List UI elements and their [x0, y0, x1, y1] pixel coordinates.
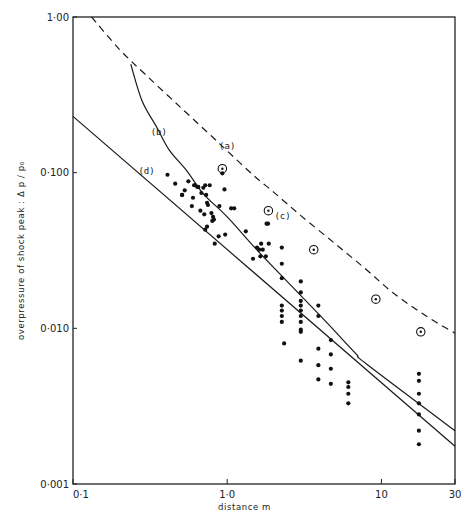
plot-area: 0·11·01030 1·000·1000·0100·001 (a)(b)(d)…	[40, 12, 461, 501]
data-point	[280, 276, 284, 280]
data-point	[329, 338, 333, 342]
data-point	[173, 182, 177, 186]
circled-points	[218, 165, 425, 336]
data-point	[213, 242, 217, 246]
data-point	[217, 204, 221, 208]
data-point	[206, 203, 210, 207]
data-point	[316, 303, 320, 307]
circled-point-center	[420, 331, 422, 333]
data-point	[204, 193, 208, 197]
data-point	[417, 392, 421, 396]
data-points	[165, 171, 421, 446]
circled-point-center	[221, 168, 223, 170]
circled-point-center	[375, 298, 377, 300]
data-point	[299, 279, 303, 283]
data-point	[329, 382, 333, 386]
y-tick-label: 1·00	[47, 12, 69, 23]
x-tick-label: 30	[449, 489, 462, 500]
curve-label-c: (c)	[274, 211, 290, 221]
data-point	[299, 320, 303, 324]
data-point	[198, 209, 202, 213]
data-point	[205, 225, 209, 229]
y-tick-label: 0·100	[40, 167, 69, 178]
data-point	[316, 377, 320, 381]
data-point	[280, 320, 284, 324]
data-point	[191, 196, 195, 200]
data-point	[183, 188, 187, 192]
y-axis-ticks: 1·000·1000·0100·001	[40, 12, 77, 490]
data-point	[261, 248, 265, 252]
data-point	[244, 229, 248, 233]
data-point	[299, 308, 303, 312]
data-point	[417, 429, 421, 433]
data-point	[299, 299, 303, 303]
data-point	[282, 341, 286, 345]
y-tick-label: 0·001	[40, 479, 69, 490]
circled-point-center	[267, 209, 269, 211]
data-point	[202, 212, 206, 216]
data-point	[232, 206, 236, 210]
data-point	[280, 308, 284, 312]
data-point	[299, 290, 303, 294]
data-point	[280, 262, 284, 266]
data-point	[223, 233, 227, 237]
curve-label: (d)	[138, 166, 154, 176]
data-point	[280, 303, 284, 307]
data-point	[203, 183, 207, 187]
data-point	[264, 254, 268, 258]
y-tick-label: 0·010	[40, 323, 69, 334]
data-point	[417, 379, 421, 383]
data-point	[346, 385, 350, 389]
data-point	[209, 211, 213, 215]
data-point	[180, 193, 184, 197]
data-point	[299, 303, 303, 307]
data-point	[329, 367, 333, 371]
x-tick-label: 0·1	[73, 489, 89, 500]
data-point	[190, 204, 194, 208]
curve-b	[131, 64, 455, 430]
data-point	[196, 185, 200, 189]
data-point	[165, 173, 169, 177]
data-point	[316, 347, 320, 351]
data-point	[299, 359, 303, 363]
curve-label: (a)	[219, 141, 235, 151]
data-point	[280, 314, 284, 318]
data-point	[417, 401, 421, 405]
x-axis-ticks: 0·11·01030	[73, 479, 461, 500]
data-point	[266, 222, 270, 226]
data-point	[280, 246, 284, 250]
x-tick-label: 1·0	[219, 489, 235, 500]
x-axis-title: distance m	[218, 502, 271, 512]
data-point	[259, 242, 263, 246]
data-point	[417, 372, 421, 376]
data-point	[299, 330, 303, 334]
data-point	[299, 314, 303, 318]
data-point	[258, 254, 262, 258]
data-point	[251, 257, 255, 261]
curves	[73, 17, 455, 446]
data-point	[186, 179, 190, 183]
data-point	[217, 234, 221, 238]
data-point	[257, 248, 261, 252]
data-point	[222, 187, 226, 191]
data-point	[267, 242, 271, 246]
data-point	[329, 352, 333, 356]
data-point	[316, 363, 320, 367]
data-point	[208, 183, 212, 187]
data-point	[199, 191, 203, 195]
data-point	[417, 442, 421, 446]
data-point	[212, 217, 216, 221]
data-point	[346, 380, 350, 384]
chart: 0·11·01030 1·000·1000·0100·001 (a)(b)(d)…	[0, 0, 470, 525]
data-point	[316, 314, 320, 318]
data-point	[417, 412, 421, 416]
curve-d	[73, 116, 455, 446]
circled-point-center	[313, 248, 315, 250]
curve-label: (b)	[151, 127, 167, 137]
y-axis-title: overpressure of shock peak : Δ p / p₀	[16, 161, 26, 340]
data-point	[346, 401, 350, 405]
data-point	[346, 392, 350, 396]
x-tick-label: 10	[375, 489, 388, 500]
